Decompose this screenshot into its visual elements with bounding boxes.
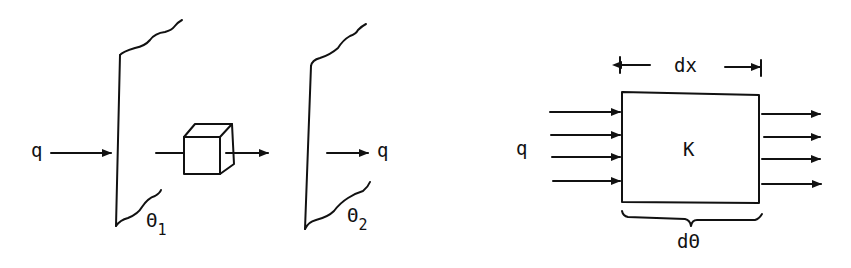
wall-2: [305, 24, 370, 229]
wall-1: [116, 20, 182, 226]
conductivity-label: K: [683, 140, 694, 159]
theta-symbol: Θ: [347, 204, 358, 226]
heat-conduction-diagram: q q Θ1 Θ2 q dx K dΘ: [0, 0, 851, 268]
theta-symbol: Θ: [146, 209, 157, 231]
wall1-temperature-label: Θ1: [146, 211, 166, 230]
outgoing-flux-label: q: [377, 141, 388, 160]
wall2-temperature-label: Θ2: [347, 206, 367, 225]
brace: [622, 211, 762, 226]
temperature-difference-label: dΘ: [677, 232, 700, 251]
subscript: 2: [358, 216, 367, 234]
subscript: 1: [157, 221, 166, 239]
cube-icon: [156, 124, 268, 174]
diagram-drawing: [0, 0, 851, 268]
incoming-flux-label: q: [31, 141, 42, 160]
incoming-flux-arrows: [550, 112, 620, 181]
slab-flux-label: q: [516, 139, 527, 158]
width-label: dx: [674, 56, 697, 75]
outgoing-flux-arrows: [762, 114, 821, 184]
